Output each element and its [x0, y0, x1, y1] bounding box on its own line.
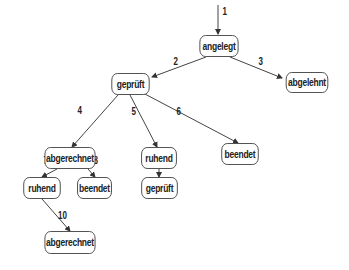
edge-6 [143, 93, 238, 143]
state-node-abgerechnet-2: abgerechnet [45, 231, 96, 254]
edge-label-2: 2 [174, 56, 178, 67]
state-node-geprueft-2: geprüft [141, 177, 178, 199]
state-node-abgerechnet: abgerechnet [45, 147, 96, 169]
edge-4 [72, 95, 118, 147]
state-node-beendet: beendet [221, 143, 258, 165]
state-node-ruhend: ruhend [141, 147, 177, 169]
edge-3 [230, 57, 282, 78]
edge-label-4: 4 [78, 105, 82, 116]
state-node-beendet-2: beendet [77, 177, 112, 199]
state-node-ruhend-2: ruhend [23, 177, 60, 199]
edge-label-6: 6 [177, 106, 181, 117]
edge-label-10: 10 [58, 210, 67, 221]
state-node-abgelehnt: abgelehnt [286, 72, 329, 93]
edge-label-3: 3 [259, 56, 263, 67]
state-node-geprueft: geprüft [111, 73, 149, 95]
edge-5 [130, 95, 157, 147]
edge-7 [42, 169, 57, 177]
state-diagram: 1 2 3 4 5 6 7 8 9 10 angelegt geprüft ab… [0, 0, 349, 270]
edge-label-1: 1 [223, 6, 227, 17]
state-node-angelegt: angelegt [199, 35, 238, 57]
edge-label-5: 5 [132, 106, 136, 117]
edges-layer [0, 0, 349, 270]
edge-2 [152, 57, 206, 77]
edge-8 [88, 169, 95, 177]
